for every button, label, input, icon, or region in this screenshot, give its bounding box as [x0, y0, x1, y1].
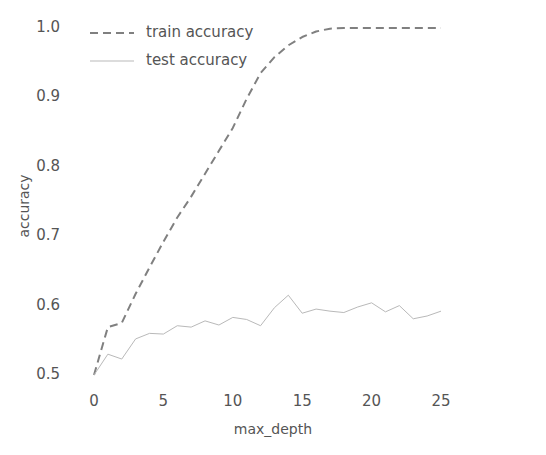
y-tick-label: 0.5	[14, 365, 60, 383]
x-tick-label: 5	[143, 392, 183, 410]
legend-label-test-accuracy: test accuracy	[146, 51, 247, 69]
x-tick-label: 25	[421, 392, 461, 410]
x-tick-label: 10	[213, 392, 253, 410]
legend-line-samples	[90, 33, 134, 61]
data-series-group	[94, 28, 441, 375]
x-tick-label: 20	[352, 392, 392, 410]
series-line-test-accuracy	[94, 295, 441, 375]
series-line-train-accuracy	[94, 28, 441, 375]
legend-label-train-accuracy: train accuracy	[146, 23, 253, 41]
y-tick-label: 0.9	[14, 87, 60, 105]
plot-area	[0, 0, 546, 455]
y-tick-label: 0.6	[14, 296, 60, 314]
accuracy-vs-max-depth-chart: 0.50.60.70.80.91.0 0510152025 train accu…	[0, 0, 546, 455]
y-tick-label: 1.0	[14, 18, 60, 36]
y-axis-title: accuracy	[16, 156, 32, 256]
x-tick-label: 0	[74, 392, 114, 410]
x-tick-label: 15	[282, 392, 322, 410]
x-axis-title: max_depth	[0, 421, 546, 437]
